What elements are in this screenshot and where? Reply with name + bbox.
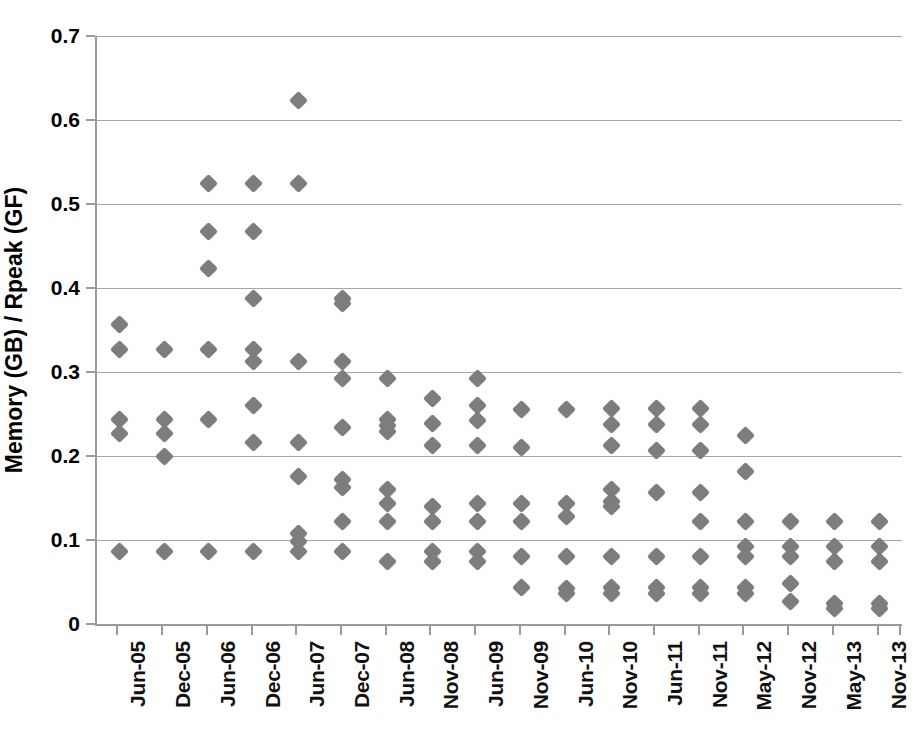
data-point bbox=[647, 483, 665, 501]
y-tick-label: 0.2 bbox=[51, 444, 80, 468]
data-point bbox=[781, 574, 799, 592]
data-point bbox=[602, 548, 620, 566]
data-point bbox=[200, 259, 218, 277]
data-point bbox=[602, 437, 620, 455]
data-point bbox=[110, 340, 128, 358]
data-point bbox=[244, 290, 262, 308]
data-point bbox=[289, 433, 307, 451]
plot-area bbox=[95, 36, 902, 624]
gridline bbox=[97, 288, 902, 289]
data-point bbox=[513, 438, 531, 456]
data-point bbox=[736, 462, 754, 480]
x-tick-label: Jun-07 bbox=[305, 641, 329, 707]
data-point bbox=[155, 543, 173, 561]
x-tick-label: Jun-11 bbox=[663, 641, 687, 706]
x-tick-label: Dec-06 bbox=[261, 641, 285, 708]
y-tick-label: 0.7 bbox=[51, 24, 80, 48]
x-tick-label: Jun-05 bbox=[126, 641, 150, 707]
data-point bbox=[423, 512, 441, 530]
x-tick-mark bbox=[429, 626, 431, 635]
data-point bbox=[110, 315, 128, 333]
data-point bbox=[110, 424, 128, 442]
y-tick-mark bbox=[86, 623, 95, 625]
gridline bbox=[97, 204, 902, 205]
data-point bbox=[781, 592, 799, 610]
x-tick-label: Nov-09 bbox=[529, 641, 553, 709]
x-tick-mark bbox=[474, 626, 476, 635]
x-tick-mark bbox=[653, 626, 655, 635]
data-point bbox=[468, 512, 486, 530]
y-tick-mark bbox=[86, 119, 95, 121]
data-point bbox=[870, 512, 888, 530]
x-tick-mark bbox=[385, 626, 387, 635]
data-point bbox=[692, 512, 710, 530]
y-tick-mark bbox=[86, 287, 95, 289]
x-tick-mark bbox=[295, 626, 297, 635]
data-point bbox=[244, 543, 262, 561]
data-point bbox=[244, 223, 262, 241]
gridline bbox=[97, 456, 902, 457]
data-point bbox=[378, 495, 396, 513]
x-tick-label: Jun-08 bbox=[395, 641, 419, 707]
gridline bbox=[97, 540, 902, 541]
data-point bbox=[200, 223, 218, 241]
y-tick-label: 0.1 bbox=[51, 528, 80, 552]
y-tick-mark bbox=[86, 35, 95, 37]
data-point bbox=[334, 418, 352, 436]
x-tick-mark bbox=[787, 626, 789, 635]
data-point bbox=[200, 174, 218, 192]
y-tick-mark bbox=[86, 371, 95, 373]
y-tick-label: 0 bbox=[68, 612, 80, 636]
x-tick-mark bbox=[519, 626, 521, 635]
x-tick-label: Dec-05 bbox=[171, 641, 195, 708]
data-point bbox=[692, 548, 710, 566]
x-axis-line bbox=[95, 624, 902, 626]
data-point bbox=[244, 396, 262, 414]
data-point bbox=[647, 548, 665, 566]
x-tick-mark bbox=[251, 626, 253, 635]
y-tick-mark bbox=[86, 539, 95, 541]
x-tick-label: May-13 bbox=[842, 641, 866, 710]
data-point bbox=[110, 543, 128, 561]
data-point bbox=[557, 401, 575, 419]
x-tick-mark bbox=[742, 626, 744, 635]
data-point bbox=[692, 442, 710, 460]
data-point bbox=[513, 401, 531, 419]
data-point bbox=[200, 411, 218, 429]
data-point bbox=[289, 91, 307, 109]
data-point bbox=[289, 543, 307, 561]
data-point bbox=[468, 437, 486, 455]
data-point bbox=[781, 512, 799, 530]
y-tick-label: 0.3 bbox=[51, 360, 80, 384]
y-tick-label: 0.5 bbox=[51, 192, 80, 216]
x-tick-mark bbox=[564, 626, 566, 635]
data-point bbox=[557, 507, 575, 525]
data-point bbox=[736, 512, 754, 530]
data-point bbox=[602, 415, 620, 433]
x-tick-label: Jun-06 bbox=[216, 641, 240, 707]
x-tick-mark bbox=[608, 626, 610, 635]
y-axis-labels: 00.10.20.30.40.50.60.7 bbox=[0, 0, 80, 732]
x-tick-mark bbox=[206, 626, 208, 635]
y-tick-mark bbox=[86, 455, 95, 457]
data-point bbox=[870, 552, 888, 570]
data-point bbox=[513, 548, 531, 566]
data-point bbox=[334, 543, 352, 561]
data-point bbox=[289, 352, 307, 370]
data-point bbox=[647, 415, 665, 433]
data-point bbox=[781, 548, 799, 566]
x-tick-mark bbox=[698, 626, 700, 635]
data-point bbox=[200, 543, 218, 561]
data-point bbox=[736, 426, 754, 444]
data-point bbox=[378, 512, 396, 530]
data-point bbox=[513, 495, 531, 513]
data-point bbox=[200, 340, 218, 358]
data-point bbox=[289, 467, 307, 485]
chart-page: Memory (GB) / Rpeak (GF) 00.10.20.30.40.… bbox=[0, 0, 919, 732]
data-point bbox=[826, 552, 844, 570]
x-tick-label: Nov-11 bbox=[708, 641, 732, 708]
data-point bbox=[692, 415, 710, 433]
data-point bbox=[334, 352, 352, 370]
data-point bbox=[692, 483, 710, 501]
data-point bbox=[423, 414, 441, 432]
